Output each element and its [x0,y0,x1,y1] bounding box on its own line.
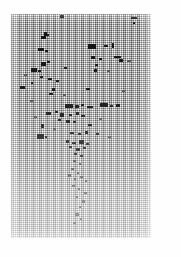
scanned-document-block [11,14,151,238]
scan-page [0,0,181,257]
scan-vignette-overlay [11,14,151,238]
